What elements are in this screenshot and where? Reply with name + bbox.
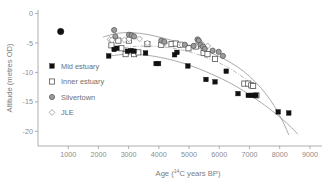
- data-point: [186, 64, 191, 69]
- data-point: [119, 46, 124, 51]
- data-point: [112, 27, 117, 32]
- data-point: [191, 43, 196, 48]
- legend-label-jle: JLE: [61, 108, 74, 117]
- data-point: [175, 50, 180, 55]
- y-tick-label: -15: [23, 97, 33, 106]
- data-point: [224, 69, 229, 74]
- x-axis-title: Age (14C years BP): [156, 168, 221, 178]
- data-point: [113, 34, 118, 39]
- x-tick-label: 7000: [241, 150, 257, 159]
- data-point: [212, 56, 217, 61]
- y-tick-label: -5: [27, 39, 33, 48]
- legend-marker-inner-estuary: [49, 79, 54, 84]
- outlier-point: [57, 28, 63, 34]
- data-point: [143, 51, 148, 56]
- data-point: [254, 93, 259, 98]
- data-point: [276, 110, 281, 115]
- lower-bound-curve: [107, 54, 298, 134]
- data-point: [251, 83, 256, 88]
- data-point: [202, 46, 207, 51]
- data-point: [210, 48, 215, 53]
- x-tick-label: 6000: [211, 150, 227, 159]
- data-point: [213, 80, 218, 85]
- chart-canvas: 0-5-10-15-20 100020003000400050006000700…: [0, 0, 328, 185]
- data-point: [205, 52, 210, 57]
- chart-legend: Mid estuaryInner estuarySilvertownJLE: [49, 62, 104, 118]
- data-point: [204, 77, 209, 82]
- data-point: [216, 49, 221, 54]
- legend-marker-silvertown: [49, 94, 54, 99]
- data-point: [137, 36, 143, 42]
- y-tick-label: -10: [23, 68, 33, 77]
- x-axis: 100020003000400050006000700080009000: [38, 146, 322, 159]
- x-tick-group: 100020003000400050006000700080009000: [60, 146, 318, 159]
- data-point: [132, 49, 137, 54]
- y-tick-label: -20: [23, 127, 33, 136]
- data-point: [286, 111, 291, 116]
- data-point: [156, 61, 161, 66]
- x-tick-label: 2000: [90, 150, 106, 159]
- y-tick-group: 0-5-10-15-20: [23, 9, 38, 136]
- y-axis: 0-5-10-15-20: [23, 9, 38, 146]
- x-tick-label: 8000: [272, 150, 288, 159]
- data-point: [236, 91, 241, 96]
- data-point: [162, 39, 167, 44]
- data-point: [115, 46, 120, 51]
- legend-marker-jle: [49, 110, 55, 116]
- data-point: [106, 54, 111, 59]
- isolated-mid-estuary-point: [57, 28, 63, 34]
- x-tick-label: 5000: [181, 150, 197, 159]
- legend-label-inner-estuary: Inner estuary: [61, 77, 104, 86]
- data-points: [106, 27, 291, 115]
- legend-marker-mid-estuary: [50, 64, 55, 69]
- scatter-chart: 0-5-10-15-20 100020003000400050006000700…: [0, 0, 328, 185]
- legend-label-mid-estuary: Mid estuary: [61, 62, 100, 71]
- x-tick-label: 1000: [60, 150, 76, 159]
- legend-label-silvertown: Silvertown: [61, 93, 95, 102]
- x-tick-label: 9000: [302, 150, 318, 159]
- x-tick-label: 4000: [151, 150, 167, 159]
- y-tick-label: 0: [29, 9, 33, 18]
- data-point: [131, 34, 136, 39]
- x-tick-label: 3000: [121, 150, 137, 159]
- data-point: [220, 53, 225, 58]
- data-point: [182, 42, 187, 47]
- y-axis-title: Altitude (metres OD): [5, 43, 14, 113]
